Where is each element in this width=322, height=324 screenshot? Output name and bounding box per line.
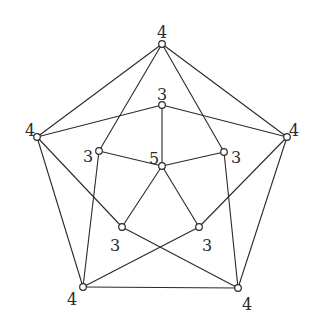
vertex-degree-label: 4 [157,23,167,42]
vertex-degree-label: 3 [83,147,93,166]
vertex-degree-label: 4 [242,295,252,314]
vertex-A [159,41,166,48]
vertex-degree-label: 3 [110,236,120,255]
vertex-D [80,284,87,291]
edge-C-J [199,137,287,227]
edge-C-E [238,137,287,288]
vertex-H [221,149,228,156]
vertex-G [96,148,103,155]
edge-I-K [122,166,162,227]
edge-H-K [162,152,224,166]
edge-C-F [162,105,287,137]
edge-D-E [83,287,238,288]
edge-J-K [162,166,199,227]
vertex-J [196,224,203,231]
vertex-degree-label: 5 [149,149,159,168]
edge-A-C [162,44,287,137]
vertex-K [159,163,166,170]
edge-A-B [37,44,162,137]
graph-diagram: 44444333533 [0,0,322,324]
vertex-degree-label: 4 [67,290,77,309]
vertex-degree-label: 3 [157,85,167,104]
edge-G-D [83,151,99,287]
vertex-E [235,285,242,292]
vertex-degree-label: 4 [25,121,35,140]
edge-J-D [83,227,199,287]
vertex-I [119,224,126,231]
edge-B-F [37,105,162,137]
node-layer [34,41,291,292]
vertex-degree-label: 3 [231,148,241,167]
vertex-degree-label: 4 [289,121,299,140]
edge-H-E [224,152,238,288]
edge-A-H [162,44,224,152]
vertex-degree-label: 3 [202,236,212,255]
edge-B-I [37,137,122,227]
edge-B-D [37,137,83,287]
edge-A-G [99,44,162,151]
